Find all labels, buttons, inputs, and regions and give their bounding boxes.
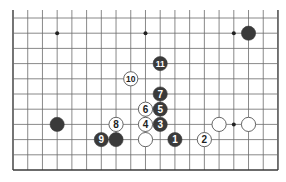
black-stone-1: 1 bbox=[168, 133, 182, 147]
move-number: 6 bbox=[143, 104, 149, 115]
black-stone bbox=[241, 26, 255, 40]
star-point bbox=[232, 31, 236, 35]
black-stone-11: 11 bbox=[153, 57, 167, 71]
star-point bbox=[143, 31, 147, 35]
white-stone-6: 6 bbox=[138, 102, 152, 116]
move-number: 9 bbox=[99, 134, 105, 145]
move-number: 3 bbox=[157, 119, 163, 130]
move-number: 8 bbox=[113, 119, 119, 130]
white-stone-8: 8 bbox=[109, 117, 123, 131]
move-number: 1 bbox=[172, 134, 178, 145]
move-number: 10 bbox=[126, 74, 136, 84]
black-stone-5: 5 bbox=[153, 102, 167, 116]
move-number: 7 bbox=[157, 89, 163, 100]
stones: 1234567891011 bbox=[50, 26, 256, 147]
white-stone-4: 4 bbox=[138, 117, 152, 131]
black-stone-7: 7 bbox=[153, 87, 167, 101]
white-stone bbox=[241, 117, 255, 131]
white-stone-2: 2 bbox=[197, 133, 211, 147]
move-number: 4 bbox=[143, 119, 149, 130]
black-stone bbox=[50, 117, 64, 131]
go-board: 1234567891011 bbox=[0, 0, 286, 182]
black-stone-3: 3 bbox=[153, 117, 167, 131]
white-stone-10: 10 bbox=[124, 72, 138, 86]
star-point bbox=[55, 31, 59, 35]
white-stone bbox=[212, 117, 226, 131]
black-stone bbox=[109, 133, 123, 147]
move-number: 11 bbox=[156, 59, 165, 69]
white-stone bbox=[138, 133, 152, 147]
move-number: 5 bbox=[157, 104, 163, 115]
move-number: 2 bbox=[202, 134, 208, 145]
star-point bbox=[232, 122, 236, 126]
black-stone-9: 9 bbox=[94, 133, 108, 147]
